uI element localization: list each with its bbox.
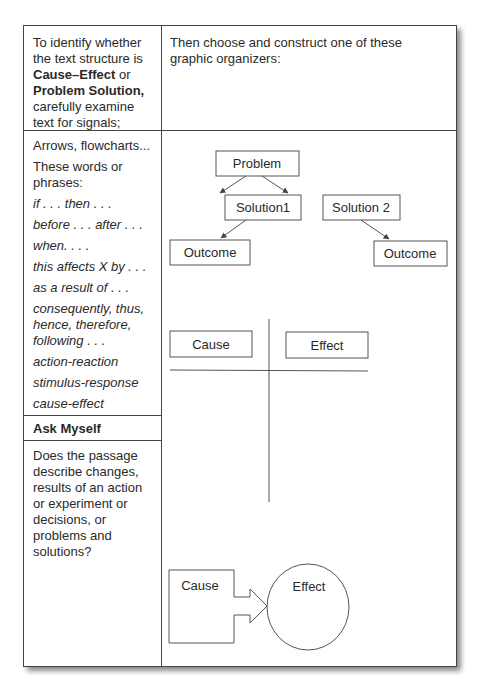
t-chart-cause-label: Cause: [192, 337, 230, 352]
graphic-organizer-table: To identify whether the text structure i…: [23, 25, 457, 667]
arrow-icon: [220, 176, 246, 193]
arrow-icon: [262, 176, 288, 193]
organizer-diagrams: Problem Solution1 Solution 2 Outcome Out…: [24, 26, 458, 668]
solution1-label: Solution1: [236, 200, 290, 215]
arrow-icon: [361, 220, 389, 239]
problem-label: Problem: [233, 156, 281, 171]
solution2-label: Solution 2: [332, 200, 390, 215]
cause-effect-arrow-diagram: [169, 564, 349, 650]
arrow-cause-label: Cause: [181, 578, 219, 593]
effect-circle: [267, 564, 349, 650]
arrow-effect-label: Effect: [292, 579, 325, 594]
arrow-icon: [221, 220, 246, 238]
outcome2-label: Outcome: [384, 246, 437, 261]
t-chart-effect-label: Effect: [310, 338, 343, 353]
outcome1-label: Outcome: [184, 245, 237, 260]
